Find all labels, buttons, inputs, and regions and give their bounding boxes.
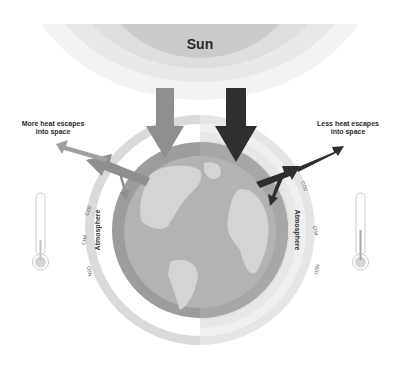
atmosphere-left-label: Atmosphere: [94, 209, 102, 250]
thermometer-right-icon: [353, 193, 369, 270]
earth: [112, 142, 288, 318]
sun-label: Sun: [178, 36, 222, 52]
greenhouse-diagram: Atmosphere Atmosphere CO2 CH4 N2O CO2 CH…: [0, 0, 399, 380]
right-caption-line2: into space: [313, 128, 383, 136]
right-caption: Less heat escapes into space: [313, 120, 383, 136]
left-caption: More heat escapes into space: [18, 120, 88, 136]
right-caption-line1: Less heat escapes: [313, 120, 383, 128]
thermometer-left-icon: [33, 193, 49, 270]
atmosphere-right-label: Atmosphere: [293, 210, 301, 251]
gas-right-n2o: N2O: [313, 264, 321, 275]
left-caption-line1: More heat escapes: [18, 120, 88, 128]
left-caption-line2: into space: [18, 128, 88, 136]
